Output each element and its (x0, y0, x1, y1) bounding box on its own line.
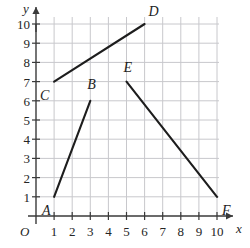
point-label-a: A (42, 204, 51, 218)
coordinate-grid-figure: 1234567891012345678910OxyABCDEF (0, 0, 250, 248)
y-axis-label: y (23, 2, 29, 15)
y-tick-label: 9 (2, 37, 30, 50)
axes (28, 7, 233, 224)
line-segments (54, 24, 217, 197)
origin-label: O (20, 225, 29, 238)
y-tick-label: 5 (2, 114, 30, 127)
y-tick-label: 8 (2, 56, 30, 69)
plot-canvas (0, 0, 250, 248)
y-tick-label: 6 (2, 95, 30, 108)
x-axis-label: x (236, 222, 242, 235)
x-tick-label: 10 (203, 225, 231, 238)
point-label-e: E (124, 61, 133, 75)
y-tick-label: 1 (2, 191, 30, 204)
y-tick-label: 4 (2, 133, 30, 146)
y-tick-label: 7 (2, 76, 30, 89)
y-tick-label: 3 (2, 152, 30, 165)
tick-marks (32, 24, 217, 220)
point-label-c: C (40, 89, 49, 103)
y-tick-label: 10 (2, 18, 30, 31)
gridlines (36, 17, 219, 216)
y-tick-label: 2 (2, 172, 30, 185)
point-label-f: F (222, 204, 231, 218)
point-label-d: D (149, 5, 159, 19)
y-axis-arrowhead (32, 7, 39, 14)
point-label-b: B (87, 78, 96, 92)
